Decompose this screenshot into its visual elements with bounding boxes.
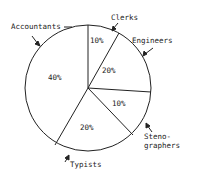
arrow-accountants-icon <box>32 36 40 46</box>
label-stenographers-2: graphers <box>144 141 180 150</box>
arrow-typists-icon <box>65 155 69 162</box>
pct-engineers: 20% <box>102 66 116 75</box>
label-stenographers-1: Steno- <box>144 132 171 141</box>
label-typists: Typists <box>70 160 102 169</box>
pct-typists: 20% <box>80 123 94 132</box>
pct-accountants: 40% <box>48 73 62 82</box>
label-accountants: Accountants <box>11 22 61 31</box>
pct-clerks: 10% <box>90 36 104 45</box>
arrow-engineers-icon <box>143 48 153 56</box>
pie-chart: 10% 20% 10% 20% 40% Clerks Engineers Ste… <box>0 0 199 174</box>
label-clerks: Clerks <box>111 13 138 22</box>
pct-stenographers: 10% <box>112 99 126 108</box>
arrow-clerks-icon <box>112 23 118 31</box>
arrow-stenographers-icon <box>146 123 152 132</box>
label-engineers: Engineers <box>132 36 173 45</box>
